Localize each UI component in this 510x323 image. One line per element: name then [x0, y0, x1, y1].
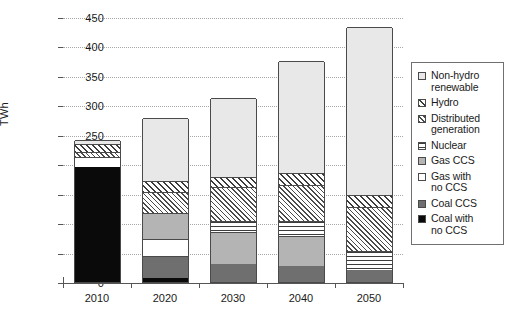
legend-swatch-icon: [418, 115, 426, 123]
legend-label: Distributed generation: [431, 113, 480, 136]
x-tick-mark: [267, 283, 268, 288]
bar-segment-non-hydro-renewable[interactable]: [279, 61, 324, 173]
bar-segment-distributed-generation[interactable]: [211, 187, 256, 221]
x-tick-mark: [63, 283, 64, 288]
bar-2040[interactable]: [278, 62, 325, 283]
legend-label: Gas with no CCS: [431, 171, 471, 194]
bar-segment-nuclear[interactable]: [279, 221, 324, 236]
legend-swatch-icon: [418, 215, 426, 223]
bar-2030[interactable]: [210, 99, 257, 283]
bar-segment-gas-with-no-ccs[interactable]: [75, 157, 120, 167]
x-tick-label-2050: 2050: [334, 292, 404, 304]
legend-item-nuclear[interactable]: Nuclear: [418, 140, 498, 152]
x-tick-mark: [403, 283, 404, 288]
legend-label: Hydro: [431, 97, 459, 109]
bar-segment-non-hydro-renewable[interactable]: [143, 118, 188, 181]
x-tick-label-2030: 2030: [198, 292, 268, 304]
x-tick-label-2020: 2020: [130, 292, 200, 304]
bar-segment-hydro[interactable]: [143, 181, 188, 192]
bar-segment-distributed-generation[interactable]: [279, 185, 324, 222]
legend-item-non-hydro-renewable[interactable]: Non-hydro renewable: [418, 70, 498, 93]
x-axis-line: [63, 283, 403, 284]
bar-segment-distributed-generation[interactable]: [143, 192, 188, 213]
legend-item-gas-ccs[interactable]: Gas CCS: [418, 155, 498, 167]
legend-label: Coal with no CCS: [431, 213, 473, 236]
legend-item-coal-ccs[interactable]: Coal CCS: [418, 198, 498, 210]
bar-segment-coal-ccs[interactable]: [143, 256, 188, 278]
legend-item-coal-with-no-ccs[interactable]: Coal with no CCS: [418, 213, 498, 236]
bar-segment-gas-ccs[interactable]: [211, 232, 256, 264]
bar-segment-gas-ccs[interactable]: [143, 213, 188, 240]
bar-segment-gas-ccs[interactable]: [279, 236, 324, 265]
y-axis-title: TWh: [0, 102, 10, 126]
x-tick-mark: [199, 283, 200, 288]
bar-segment-non-hydro-renewable[interactable]: [211, 98, 256, 177]
bar-segment-nuclear[interactable]: [211, 221, 256, 232]
legend-label: Coal CCS: [431, 198, 477, 210]
bar-segment-hydro[interactable]: [347, 195, 392, 207]
bar-segment-hydro[interactable]: [75, 144, 120, 152]
x-tick-mark: [335, 283, 336, 288]
bar-segment-hydro[interactable]: [279, 173, 324, 185]
bar-2010[interactable]: [74, 141, 121, 284]
bar-2050[interactable]: [346, 28, 393, 283]
legend-swatch-icon: [418, 72, 426, 80]
x-tick-mark: [131, 283, 132, 288]
legend-swatch-icon: [418, 173, 426, 181]
legend-item-hydro[interactable]: Hydro: [418, 97, 498, 109]
bar-2020[interactable]: [142, 119, 189, 283]
legend-swatch-icon: [418, 99, 426, 107]
bar-segment-hydro[interactable]: [211, 177, 256, 188]
x-tick-label-2010: 2010: [62, 292, 132, 304]
legend-label: Non-hydro renewable: [431, 70, 479, 93]
bar-segment-coal-ccs[interactable]: [279, 266, 324, 282]
bar-segment-nuclear[interactable]: [347, 251, 392, 270]
bar-segment-distributed-generation[interactable]: [347, 207, 392, 252]
legend-swatch-icon: [418, 200, 426, 208]
legend-item-gas-with-no-ccs[interactable]: Gas with no CCS: [418, 171, 498, 194]
bar-segment-coal-ccs[interactable]: [347, 270, 392, 282]
bar-segment-coal-with-no-ccs[interactable]: [143, 278, 188, 282]
legend-label: Nuclear: [431, 140, 466, 152]
x-tick-label-2040: 2040: [266, 292, 336, 304]
plot-area: [63, 18, 403, 283]
bar-segment-non-hydro-renewable[interactable]: [347, 27, 392, 195]
bar-segment-coal-ccs[interactable]: [211, 264, 256, 282]
legend-label: Gas CCS: [431, 155, 475, 167]
chart-legend: Non-hydro renewableHydroDistributed gene…: [411, 62, 504, 245]
legend-swatch-icon: [418, 157, 426, 165]
bar-segment-coal-with-no-ccs[interactable]: [75, 167, 120, 282]
stacked-bar-chart: TWh 050100150200250300350400450 20102020…: [0, 0, 510, 323]
legend-swatch-icon: [418, 142, 426, 150]
legend-item-distributed-generation[interactable]: Distributed generation: [418, 113, 498, 136]
bar-segment-gas-with-no-ccs[interactable]: [143, 239, 188, 255]
